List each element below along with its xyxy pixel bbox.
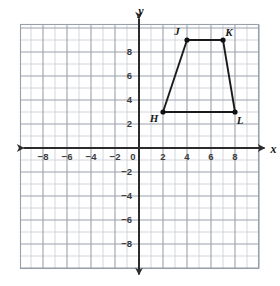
vertex-label-l: L bbox=[236, 114, 244, 126]
y-tick-label: 8 bbox=[127, 46, 132, 57]
x-tick-label: 2 bbox=[160, 151, 165, 162]
x-tick-label: −6 bbox=[62, 151, 73, 162]
y-tick-label: 2 bbox=[127, 118, 132, 129]
x-tick-label-origin: 0 bbox=[130, 151, 135, 162]
y-axis-label: y bbox=[136, 4, 144, 18]
y-tick-label: 4 bbox=[127, 94, 133, 105]
vertex-label-h: H bbox=[149, 112, 159, 124]
x-tick-label: 6 bbox=[208, 151, 213, 162]
vertex-point-k bbox=[220, 37, 225, 42]
y-tick-label: −2 bbox=[121, 166, 132, 177]
x-tick-label: −4 bbox=[86, 151, 98, 162]
x-tick-label: −8 bbox=[38, 151, 49, 162]
y-tick-label: 6 bbox=[127, 70, 132, 81]
x-axis-label: x bbox=[270, 142, 277, 156]
x-tick-label: 4 bbox=[184, 151, 190, 162]
x-tick-label: −2 bbox=[110, 151, 121, 162]
vertex-point-h bbox=[160, 109, 165, 114]
coordinate-grid-svg: −8−6−4−2024688642−2−4−6−8xyHJKL bbox=[0, 0, 280, 286]
x-tick-label: 8 bbox=[232, 151, 237, 162]
vertex-label-j: J bbox=[173, 25, 180, 37]
vertex-point-j bbox=[184, 37, 189, 42]
coordinate-plane-figure: −8−6−4−2024688642−2−4−6−8xyHJKL bbox=[0, 0, 280, 286]
y-tick-label: −6 bbox=[121, 214, 132, 225]
y-tick-label: −8 bbox=[121, 238, 132, 249]
vertex-label-k: K bbox=[224, 26, 233, 38]
y-tick-label: −4 bbox=[121, 190, 133, 201]
